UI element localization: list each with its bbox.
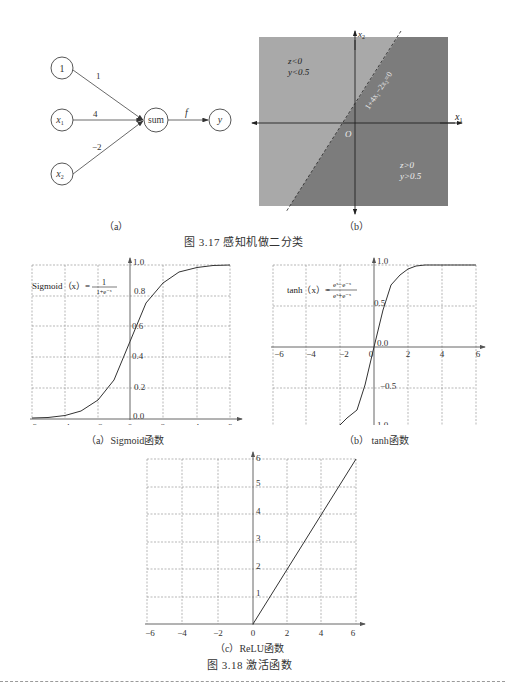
svg-text:−4: −4 bbox=[306, 349, 316, 359]
svg-text:0: 0 bbox=[128, 422, 133, 425]
svg-text:4: 4 bbox=[319, 628, 324, 638]
svg-text:4: 4 bbox=[440, 349, 445, 359]
edge-bias-to-sum bbox=[73, 70, 143, 120]
svg-text:2: 2 bbox=[256, 561, 261, 571]
activation-label: f bbox=[185, 107, 189, 118]
svg-text:2: 2 bbox=[161, 422, 166, 425]
svg-text:0.4: 0.4 bbox=[132, 351, 144, 361]
svg-text:6: 6 bbox=[228, 422, 233, 425]
svg-text:1.0: 1.0 bbox=[377, 420, 389, 425]
tanh-caption: （b） tanh函数 bbox=[344, 432, 409, 447]
sigmoid-formula: Sigmoid（x）= 1 1+e⁻ˣ bbox=[32, 278, 117, 295]
svg-text:0.8: 0.8 bbox=[134, 286, 146, 296]
svg-text:0.6: 0.6 bbox=[132, 321, 144, 331]
region-neg-z: z<0 bbox=[287, 56, 303, 66]
svg-text:0: 0 bbox=[369, 349, 374, 359]
svg-text:0.2: 0.2 bbox=[134, 382, 145, 392]
svg-text:−4: −4 bbox=[60, 422, 70, 425]
svg-text:4: 4 bbox=[195, 422, 200, 425]
svg-text:0.5: 0.5 bbox=[374, 298, 386, 308]
svg-text:eˣ−e⁻ˣ: eˣ−e⁻ˣ bbox=[333, 281, 352, 289]
region-neg-y: y<0.5 bbox=[287, 67, 310, 77]
decision-boundary-plot: x1 x2 O 1+4x₁−2x₂=0 z<0 y<0.5 z>0 y>0.5 bbox=[250, 30, 505, 220]
relu-y-ticks: 6 5 4 3 2 1 bbox=[256, 453, 261, 598]
svg-text:0: 0 bbox=[251, 628, 256, 638]
svg-text:−2: −2 bbox=[213, 628, 223, 638]
svg-text:1: 1 bbox=[256, 588, 261, 598]
svg-text:−0.5: −0.5 bbox=[380, 381, 397, 391]
relu-caption: （c）ReLU函数 bbox=[215, 640, 284, 655]
figure-3-17-b-label: （b） bbox=[344, 218, 369, 233]
svg-text:1: 1 bbox=[102, 278, 106, 287]
node-sum-label: sum bbox=[148, 115, 164, 125]
svg-text:6: 6 bbox=[351, 628, 356, 638]
weight-x2: −2 bbox=[92, 142, 102, 152]
tanh-formula: tanh（x）= eˣ−e⁻ˣ eˣ+e⁻ˣ bbox=[287, 281, 357, 300]
svg-text:1.0: 1.0 bbox=[377, 256, 389, 266]
svg-text:2: 2 bbox=[285, 628, 290, 638]
region-pos-z: z>0 bbox=[399, 160, 415, 170]
region-pos-y: y>0.5 bbox=[399, 171, 422, 181]
svg-text:eˣ+e⁻ˣ: eˣ+e⁻ˣ bbox=[333, 292, 352, 300]
svg-text:−6: −6 bbox=[145, 628, 155, 638]
relu-grid bbox=[147, 459, 356, 624]
sigmoid-y-ticks: 1.0 0.8 0.6 0.4 0.2 0.0 bbox=[132, 257, 146, 421]
origin-label: O bbox=[345, 129, 352, 139]
svg-text:6: 6 bbox=[476, 349, 481, 359]
relu-chart: 6 5 4 3 2 1 −6 −4 −2 0 2 4 6 bbox=[120, 450, 380, 640]
svg-text:1+e⁻ˣ: 1+e⁻ˣ bbox=[96, 288, 111, 295]
svg-text:5: 5 bbox=[256, 478, 261, 488]
weight-x1: 4 bbox=[93, 109, 98, 119]
edge-x2-to-sum bbox=[73, 121, 143, 174]
svg-text:3: 3 bbox=[256, 533, 261, 543]
figure-3-18-caption: 图 3.18 激活函数 bbox=[207, 656, 292, 672]
svg-text:−2: −2 bbox=[339, 349, 349, 359]
tanh-x-ticks: −6 −4 −2 0 2 4 6 bbox=[274, 349, 481, 359]
svg-text:−2: −2 bbox=[93, 422, 103, 425]
svg-text:2: 2 bbox=[406, 349, 411, 359]
figure-3-17-caption: 图 3.17 感知机做二分类 bbox=[184, 233, 304, 249]
perceptron-diagram: 1 x1 x2 sum y 1 4 −2 f bbox=[0, 30, 250, 210]
svg-text:−6: −6 bbox=[27, 422, 37, 425]
sigmoid-chart: 1.0 0.8 0.6 0.4 0.2 0.0 −6 −4 −2 0 2 4 6… bbox=[0, 255, 250, 425]
axis-x1-label: x1 bbox=[454, 111, 462, 123]
svg-text:0.0: 0.0 bbox=[133, 411, 145, 421]
relu-curve bbox=[253, 459, 356, 624]
svg-text:6: 6 bbox=[256, 453, 261, 463]
svg-text:Sigmoid（x）=: Sigmoid（x）= bbox=[32, 281, 90, 291]
weight-bias: 1 bbox=[96, 71, 101, 81]
page-footer-divider bbox=[0, 681, 505, 682]
tanh-chart: 1.0 0.5 0.0 −0.5 1.0 −6 −4 −2 0 2 4 6 ta… bbox=[255, 255, 505, 425]
node-bias-label: 1 bbox=[60, 63, 65, 74]
svg-text:tanh（x）=: tanh（x）= bbox=[287, 285, 330, 295]
axis-x2-label: x2 bbox=[357, 30, 365, 40]
sigmoid-caption: （a）Sigmoid函数 bbox=[86, 432, 164, 447]
relu-x-ticks: −6 −4 −2 0 2 4 6 bbox=[145, 628, 356, 638]
figure-3-17-a-label: （a） bbox=[104, 218, 128, 233]
sigmoid-x-ticks: −6 −4 −2 0 2 4 6 bbox=[27, 422, 233, 425]
svg-text:0.0: 0.0 bbox=[377, 338, 389, 348]
svg-text:−4: −4 bbox=[177, 628, 187, 638]
svg-text:−6: −6 bbox=[274, 349, 284, 359]
node-output-label: y bbox=[217, 114, 223, 125]
svg-text:4: 4 bbox=[256, 506, 261, 516]
svg-text:1.0: 1.0 bbox=[133, 257, 145, 267]
tanh-y-ticks: 1.0 0.5 0.0 −0.5 1.0 bbox=[374, 256, 397, 425]
